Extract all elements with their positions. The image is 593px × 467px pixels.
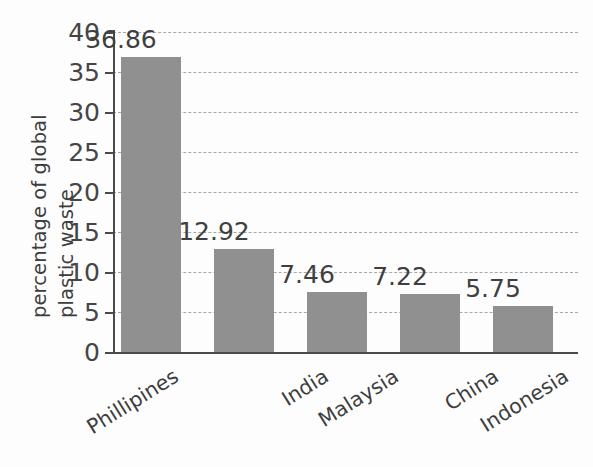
bar-phillipines xyxy=(121,57,181,352)
bar-china xyxy=(400,294,460,352)
y-tick-label-0: 0 xyxy=(52,340,100,365)
bar-value-india: 12.92 xyxy=(159,219,269,244)
y-axis-title-line-1: percentage of global xyxy=(28,114,51,318)
y-tick-label-15: 15 xyxy=(52,220,100,245)
gridline-40 xyxy=(113,32,578,33)
y-tick-10 xyxy=(105,272,114,274)
x-axis-line xyxy=(106,352,578,354)
bar-malaysia xyxy=(307,292,367,352)
y-tick-label-25: 25 xyxy=(52,140,100,165)
x-label-phillipines: Phillipines xyxy=(51,364,182,459)
y-tick-label-10: 10 xyxy=(52,260,100,285)
x-label-indonesia: Indonesia xyxy=(441,364,572,459)
y-tick-5 xyxy=(105,312,114,314)
y-tick-label-35: 35 xyxy=(52,60,100,85)
y-tick-label-30: 30 xyxy=(52,100,100,125)
y-tick-label-5: 5 xyxy=(52,300,100,325)
y-tick-15 xyxy=(105,232,114,234)
bar-value-phillipines: 36.86 xyxy=(66,27,176,52)
gridline-35 xyxy=(113,72,578,73)
bar-indonesia xyxy=(493,306,553,352)
y-tick-35 xyxy=(105,72,114,74)
gridline-25 xyxy=(113,152,578,153)
gridline-20 xyxy=(113,192,578,193)
gridline-30 xyxy=(113,112,578,113)
y-tick-25 xyxy=(105,152,114,154)
plot-area xyxy=(113,32,578,352)
bar-chart: percentage of global plastic waste 40 35… xyxy=(0,0,593,467)
y-tick-30 xyxy=(105,112,114,114)
bar-value-indonesia: 5.75 xyxy=(438,276,548,301)
y-axis-title-line-2: plastic waste xyxy=(55,189,78,318)
y-tick-0 xyxy=(105,352,114,354)
y-tick-label-20: 20 xyxy=(52,180,100,205)
y-tick-20 xyxy=(105,192,114,194)
